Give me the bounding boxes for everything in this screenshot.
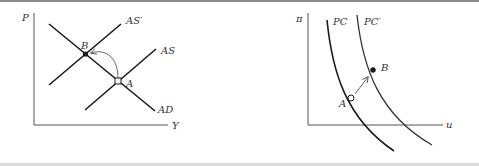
as-prime-label: AS′ bbox=[125, 15, 143, 26]
pc-label: PC bbox=[332, 16, 348, 27]
point-a-marker bbox=[348, 95, 354, 101]
ad-label: AD bbox=[157, 104, 173, 115]
phillips-curve-chart: π u PC PC′ A B bbox=[295, 13, 452, 151]
bottom-band bbox=[0, 163, 479, 166]
point-b-marker bbox=[370, 67, 375, 72]
ad-as-chart: P Y AD AS AS′ A B bbox=[21, 12, 180, 131]
point-a-label: A bbox=[338, 98, 346, 109]
point-b-marker bbox=[83, 51, 88, 56]
shift-arrow bbox=[91, 52, 118, 78]
point-a-marker bbox=[115, 78, 121, 84]
economics-figure: P Y AD AS AS′ A B π u PC PC′ bbox=[0, 0, 479, 166]
point-a-label: A bbox=[125, 78, 133, 89]
y-axis-label: π bbox=[295, 13, 303, 24]
x-axis-label: u bbox=[446, 119, 452, 130]
ad-curve bbox=[49, 24, 155, 111]
point-b-label: B bbox=[80, 40, 88, 51]
shift-arrow bbox=[355, 77, 368, 94]
x-axis-label: Y bbox=[172, 120, 180, 131]
as-label: AS bbox=[160, 45, 175, 56]
y-axis-label: P bbox=[21, 12, 29, 23]
pc-prime-label: PC′ bbox=[363, 16, 381, 27]
point-b-label: B bbox=[380, 62, 388, 73]
